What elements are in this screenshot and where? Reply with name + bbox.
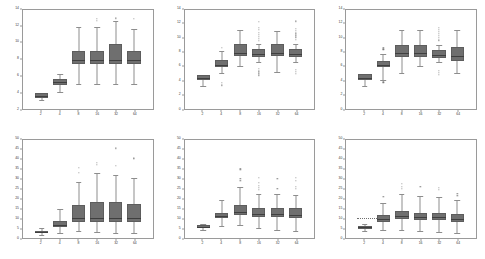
outlier-point [438, 33, 439, 34]
y-tick-mark [182, 80, 184, 81]
x-tick-label: 8 [239, 242, 241, 245]
y-tick-label: 5 [17, 227, 19, 230]
box [127, 51, 140, 64]
y-tick-mark [182, 208, 184, 209]
x-tick-mark [221, 239, 222, 241]
median-line [271, 53, 284, 54]
median-line [215, 65, 228, 66]
y-tick-label: 10 [339, 217, 343, 220]
y-tick-label: 25 [177, 187, 181, 190]
outlier-point [383, 82, 384, 83]
outlier-point [401, 188, 402, 189]
outlier-point [295, 73, 296, 74]
median-line [53, 225, 66, 226]
y-tick-label: 45 [339, 147, 343, 150]
box [127, 204, 140, 223]
whisker-cap-lower [76, 231, 82, 232]
outlier-point [258, 73, 259, 74]
whisker-upper [240, 30, 241, 43]
y-tick-mark [343, 178, 345, 179]
x-tick-label: 8 [77, 113, 79, 116]
y-tick-label: 5 [340, 227, 342, 230]
whisker-cap-upper [399, 194, 405, 195]
whisker-lower [383, 222, 384, 230]
x-tick-label: 64 [456, 113, 460, 116]
median-line [197, 78, 210, 79]
y-tick-mark [343, 37, 345, 38]
whisker-lower [240, 56, 241, 66]
whisker-lower [97, 222, 98, 232]
whisker-cap-lower [57, 92, 63, 93]
x-tick-mark [364, 239, 365, 241]
y-tick-mark [20, 9, 22, 10]
whisker-cap-lower [219, 73, 225, 74]
box [252, 208, 265, 217]
y-tick-mark [20, 59, 22, 60]
plot-area: 05101520253035404550248163264 [184, 139, 316, 240]
median-line [127, 218, 140, 219]
whisker-cap-lower [455, 233, 461, 234]
x-tick-mark [401, 239, 402, 241]
box [109, 44, 122, 65]
outlier-point [295, 39, 296, 40]
whisker-cap-lower [39, 235, 45, 236]
x-tick-mark [59, 110, 60, 112]
whisker-upper [97, 173, 98, 202]
x-tick-mark [202, 110, 203, 112]
x-tick-mark [364, 110, 365, 112]
y-tick-mark [182, 158, 184, 159]
y-tick-mark [182, 138, 184, 139]
whisker-cap-upper [436, 45, 442, 46]
outlier-point [438, 72, 439, 73]
whisker-cap-upper [455, 30, 461, 31]
y-tick-label: 2 [17, 108, 19, 111]
median-line [252, 214, 265, 215]
whisker-upper [134, 29, 135, 51]
median-line [358, 227, 371, 228]
whisker-lower [401, 57, 402, 72]
outlier-point [258, 38, 259, 39]
x-tick-mark [78, 239, 79, 241]
whisker-cap-upper [94, 27, 100, 28]
axes-frame [345, 9, 477, 110]
y-tick-mark [20, 239, 22, 240]
axes-frame [184, 9, 316, 110]
y-tick-mark [20, 25, 22, 26]
plot-area: 2468101214248163264 [22, 9, 154, 110]
y-tick-label: 4 [340, 79, 342, 82]
box [234, 44, 247, 57]
whisker-upper [115, 21, 116, 43]
median-line [271, 214, 284, 215]
box [90, 51, 103, 64]
whisker-cap-upper [94, 173, 100, 174]
whisker-upper [420, 196, 421, 213]
x-tick-mark [116, 110, 117, 112]
y-tick-mark [20, 198, 22, 199]
whisker-lower [221, 218, 222, 226]
box [414, 45, 427, 57]
whisker-cap-upper [237, 30, 243, 31]
y-tick-mark [343, 228, 345, 229]
outlier-point [420, 186, 421, 187]
outlier-point [438, 40, 439, 41]
y-tick-label: 0 [179, 108, 181, 111]
whisker-upper [277, 194, 278, 208]
x-tick-mark [40, 239, 41, 241]
y-tick-mark [182, 218, 184, 219]
whisker-cap-lower [293, 231, 299, 232]
box [395, 45, 408, 57]
median-line [90, 60, 103, 61]
x-tick-mark [420, 110, 421, 112]
outlier-point [295, 33, 296, 34]
plot-area: 02468101214248163264 [345, 9, 477, 110]
outlier-point [401, 183, 402, 184]
whisker-cap-upper [219, 200, 225, 201]
x-tick-label: 4 [59, 242, 61, 245]
x-tick-mark [458, 239, 459, 241]
box [395, 211, 408, 219]
y-tick-label: 10 [339, 36, 343, 39]
whisker-lower [78, 64, 79, 84]
y-tick-mark [182, 168, 184, 169]
x-tick-label: 2 [40, 242, 42, 245]
outlier-point [383, 196, 384, 197]
